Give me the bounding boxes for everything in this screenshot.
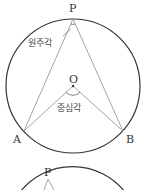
label-B: B <box>126 133 134 146</box>
central-angle-label: 중심각 <box>57 102 81 113</box>
label-P-2: P <box>44 166 52 179</box>
line-2a <box>44 179 48 190</box>
circle-2 <box>20 167 125 190</box>
diagram: P O A B 원주각 중심각 P <box>0 0 147 190</box>
label-O: O <box>69 73 78 86</box>
figure-1: P O A B 원주각 중심각 <box>6 2 140 153</box>
line-2b <box>48 179 54 190</box>
label-P: P <box>69 2 77 15</box>
leader-line <box>63 29 71 36</box>
central-angle-arc <box>66 92 80 95</box>
label-A: A <box>12 133 22 146</box>
inscribed-angle-label: 원주각 <box>28 37 52 48</box>
figure-2: P <box>20 166 125 190</box>
